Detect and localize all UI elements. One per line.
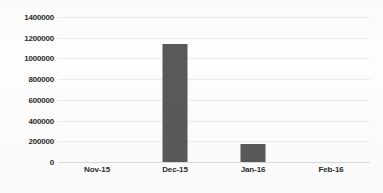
y-axis-tick-label: 1200000 xyxy=(0,33,54,42)
gridline-600000 xyxy=(58,100,370,101)
y-axis-tick-label: 1400000 xyxy=(0,13,54,22)
y-axis-tick-label: 800000 xyxy=(0,75,54,84)
y-axis-tick-label: 200000 xyxy=(0,137,54,146)
bar-Dec-15 xyxy=(163,44,188,162)
plot-area xyxy=(58,17,370,162)
gridline-1000000 xyxy=(58,58,370,59)
x-axis: Nov-15Dec-15Jan-16Feb-16 xyxy=(58,165,370,181)
bar-Jan-16 xyxy=(241,144,266,162)
gridline-200000 xyxy=(58,141,370,142)
bar-chart: 0200000400000600000800000100000012000001… xyxy=(0,0,383,193)
gridline-1400000 xyxy=(58,17,370,18)
y-axis-tick-label: 400000 xyxy=(0,116,54,125)
gridline-0 xyxy=(58,162,370,163)
y-axis: 0200000400000600000800000100000012000001… xyxy=(0,0,54,193)
y-axis-tick-label: 0 xyxy=(0,158,54,167)
x-axis-tick-label: Jan-16 xyxy=(241,165,266,174)
x-axis-tick-label: Dec-15 xyxy=(162,165,188,174)
x-axis-tick-label: Feb-16 xyxy=(318,165,343,174)
y-axis-tick-label: 1000000 xyxy=(0,54,54,63)
gridline-800000 xyxy=(58,79,370,80)
x-axis-tick-label: Nov-15 xyxy=(84,165,110,174)
y-axis-tick-label: 600000 xyxy=(0,95,54,104)
gridline-1200000 xyxy=(58,38,370,39)
gridline-400000 xyxy=(58,121,370,122)
